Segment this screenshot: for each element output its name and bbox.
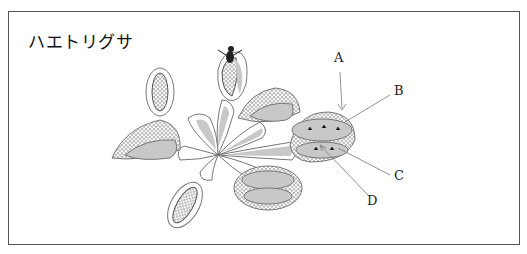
venus-flytrap-illustration [0, 0, 527, 254]
label-b: B [394, 83, 404, 98]
trap-upper-right [238, 88, 300, 122]
trap-left [112, 120, 180, 159]
label-a: A [334, 50, 343, 65]
label-d: D [367, 193, 377, 208]
trap-labeled [290, 112, 355, 162]
trap-upper-left [146, 68, 174, 116]
trap-bottom [234, 166, 302, 210]
trap-with-fly [218, 46, 247, 101]
label-c: C [394, 168, 404, 183]
trap-lower-left [160, 176, 209, 233]
